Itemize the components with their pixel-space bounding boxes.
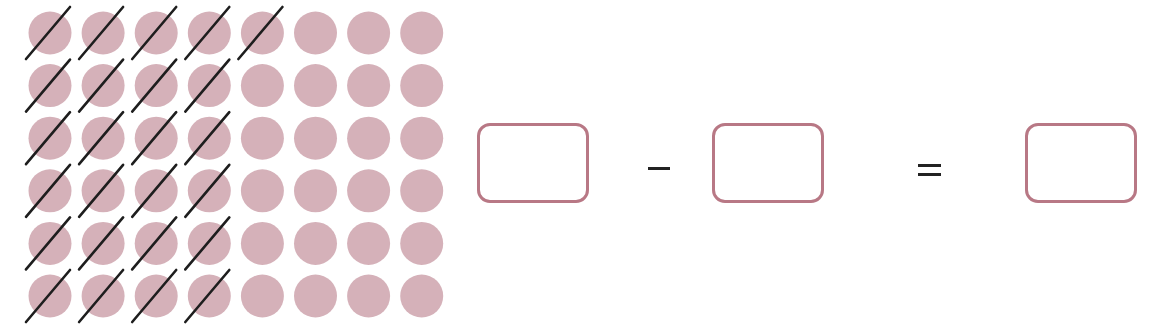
dot [347,275,390,318]
dot [400,222,443,265]
difference-answer-box[interactable] [1025,123,1137,203]
subtrahend-answer-box[interactable] [712,123,824,203]
dot [400,117,443,160]
dot [241,169,284,212]
minus-sign [648,167,670,170]
dot [294,64,337,107]
dot [294,12,337,55]
dot [241,222,284,265]
dot [400,169,443,212]
dot [400,64,443,107]
dot [347,169,390,212]
dot [400,275,443,318]
dot [294,222,337,265]
dot [347,222,390,265]
dot-grid [0,0,460,331]
dot [241,64,284,107]
equals-bar-bottom [918,173,941,176]
dot [294,117,337,160]
dot [241,117,284,160]
equals-bar-top [918,164,941,167]
dot [347,64,390,107]
dot [294,275,337,318]
dot [241,275,284,318]
dot [294,169,337,212]
dot [347,117,390,160]
dot [347,12,390,55]
minuend-answer-box[interactable] [477,123,589,203]
dot [400,12,443,55]
